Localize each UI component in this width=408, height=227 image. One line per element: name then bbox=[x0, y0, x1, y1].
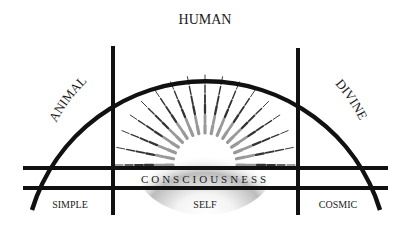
svg-text:ANIMAL: ANIMAL bbox=[46, 73, 90, 124]
sun-ray-segment bbox=[166, 157, 174, 159]
sun-ray-segment bbox=[193, 106, 195, 114]
sun-ray-segment bbox=[156, 155, 164, 157]
sun-ray-segment bbox=[139, 121, 146, 125]
sun-ray-segment bbox=[219, 87, 221, 95]
label-consciousness: CONSCIOUSNESS bbox=[141, 173, 269, 185]
sun bbox=[115, 75, 295, 215]
sun-ray-segment bbox=[131, 134, 138, 137]
svg-text:DIVINE: DIVINE bbox=[333, 76, 371, 122]
sun-ray-segment bbox=[257, 126, 264, 131]
label-divine: DIVINE bbox=[333, 76, 371, 122]
sun-ray-segment bbox=[239, 107, 244, 114]
sun-ray-segment bbox=[197, 126, 199, 134]
sun-ray-segment bbox=[229, 100, 232, 107]
sun-ray-segment bbox=[213, 116, 215, 124]
sun-ray-segment bbox=[141, 101, 147, 107]
sun-ray-segment bbox=[225, 110, 228, 117]
sun-ray-segment bbox=[236, 157, 244, 159]
label-human: HUMAN bbox=[179, 12, 232, 27]
sun-ray-segment bbox=[256, 153, 264, 155]
sun-ray-segment bbox=[246, 155, 254, 157]
sun-ray-segment bbox=[249, 116, 255, 122]
sun-ray-segment bbox=[276, 149, 284, 151]
sun-ray-segment bbox=[122, 131, 129, 134]
sun-ray-segment bbox=[191, 96, 193, 104]
sun-ray-segment bbox=[148, 108, 154, 114]
sun-ray-segment bbox=[130, 115, 137, 119]
sun-ray-segment bbox=[251, 90, 255, 97]
sun-ray-segment bbox=[161, 99, 165, 106]
label-animal: ANIMAL bbox=[46, 73, 90, 124]
sun-ray-segment bbox=[195, 116, 197, 124]
sun-ray-segment bbox=[174, 91, 177, 98]
label-cosmic: COSMIC bbox=[319, 199, 358, 210]
sun-ray-segment bbox=[245, 99, 249, 106]
sun-ray-segment bbox=[273, 115, 280, 119]
sun-ray-segment bbox=[147, 126, 154, 131]
sun-ray-segment bbox=[281, 131, 288, 134]
sun-ray-segment bbox=[146, 153, 154, 155]
sun-ray-segment bbox=[166, 107, 171, 114]
sun-ray-segment bbox=[215, 106, 217, 114]
sun-ray-segment bbox=[272, 134, 279, 137]
sun-ray-segment bbox=[182, 110, 185, 117]
consciousness-diagram: HUMAN ANIMAL DIVINE CONSCIOUSNESS SIMPLE… bbox=[0, 0, 408, 227]
sun-ray-segment bbox=[256, 108, 262, 114]
sun-ray-segment bbox=[211, 126, 213, 134]
label-simple: SIMPLE bbox=[52, 199, 88, 210]
sun-ray-segment bbox=[265, 121, 272, 125]
sun-ray-segment bbox=[117, 147, 125, 149]
sun-ray-segment bbox=[189, 87, 191, 95]
sun-ray-segment bbox=[263, 101, 269, 107]
sun-ray-segment bbox=[233, 91, 236, 98]
sun-ray-segment bbox=[285, 147, 293, 149]
sun-ray-segment bbox=[127, 149, 135, 151]
sun-ray-segment bbox=[178, 100, 181, 107]
sun-ray-segment bbox=[217, 96, 219, 104]
sun-ray-segment bbox=[156, 116, 162, 122]
sun-ray-segment bbox=[155, 90, 159, 97]
label-self: SELF bbox=[193, 199, 217, 210]
